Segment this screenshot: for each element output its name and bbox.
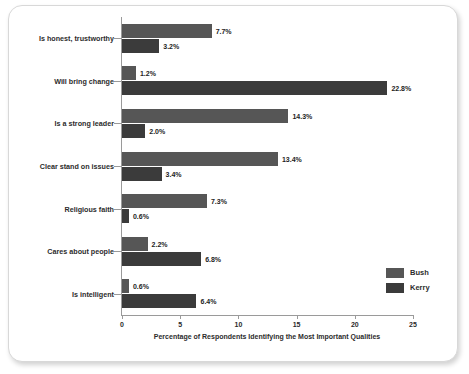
- category-label-4: Religious faith: [64, 204, 114, 213]
- y-tick-4: [114, 209, 121, 210]
- bar-value-kerry-0: 3.2%: [163, 42, 179, 49]
- x-tick-5: [180, 315, 181, 319]
- bar-bush-4: [122, 194, 207, 208]
- bar-kerry-0: [122, 39, 159, 53]
- bar-value-kerry-1: 22.8%: [391, 85, 411, 92]
- bar-bush-2: [122, 109, 288, 123]
- bar-value-bush-6: 0.6%: [133, 283, 149, 290]
- bar-value-bush-2: 14.3%: [292, 112, 312, 119]
- x-tick-label-25: 25: [409, 321, 417, 328]
- bar-value-kerry-3: 3.4%: [166, 170, 182, 177]
- x-tick-label-15: 15: [293, 321, 301, 328]
- bar-value-bush-4: 7.3%: [211, 198, 227, 205]
- x-tick-20: [355, 315, 356, 319]
- bar-kerry-4: [122, 209, 129, 223]
- bar-value-kerry-5: 6.8%: [205, 255, 221, 262]
- bar-bush-0: [122, 24, 212, 38]
- x-tick-0: [122, 315, 123, 319]
- bar-chart: 0510152025 Is honest, trustworthyWill br…: [0, 0, 469, 374]
- x-tick-25: [413, 315, 414, 319]
- bar-bush-1: [122, 66, 136, 80]
- category-label-2: Is a strong leader: [54, 119, 114, 128]
- bar-bush-6: [122, 279, 129, 293]
- bar-kerry-6: [122, 294, 196, 308]
- legend-item-bush[interactable]: Bush: [386, 267, 430, 278]
- x-tick-label-0: 0: [120, 321, 124, 328]
- bar-value-bush-0: 7.7%: [216, 27, 232, 34]
- x-axis-title: Percentage of Respondents Identifying th…: [121, 333, 413, 340]
- legend-label-bush: Bush: [410, 268, 429, 277]
- category-label-3: Clear stand on issues: [40, 162, 114, 171]
- legend-item-kerry[interactable]: Kerry: [386, 282, 430, 293]
- x-tick-15: [297, 315, 298, 319]
- y-tick-1: [114, 81, 121, 82]
- bar-value-bush-3: 13.4%: [282, 155, 302, 162]
- bar-bush-3: [122, 152, 278, 166]
- legend-label-kerry: Kerry: [410, 283, 430, 292]
- bar-kerry-5: [122, 252, 201, 266]
- y-tick-0: [114, 38, 121, 39]
- x-tick-label-5: 5: [178, 321, 182, 328]
- category-label-1: Will bring change: [54, 76, 114, 85]
- x-tick-label-20: 20: [351, 321, 359, 328]
- legend-swatch-kerry: [386, 283, 404, 293]
- category-label-0: Is honest, trustworthy: [39, 34, 114, 43]
- y-tick-6: [114, 294, 121, 295]
- bar-value-kerry-4: 0.6%: [133, 213, 149, 220]
- x-tick-10: [238, 315, 239, 319]
- bar-value-bush-5: 2.2%: [152, 240, 168, 247]
- bar-kerry-3: [122, 167, 162, 181]
- x-tick-label-10: 10: [234, 321, 242, 328]
- bar-value-kerry-2: 2.0%: [149, 127, 165, 134]
- y-tick-3: [114, 166, 121, 167]
- bar-bush-5: [122, 237, 148, 251]
- bar-value-bush-1: 1.2%: [140, 70, 156, 77]
- chart-legend: BushKerry: [386, 267, 430, 297]
- legend-swatch-bush: [386, 268, 404, 278]
- y-tick-2: [114, 123, 121, 124]
- x-axis-line: [121, 315, 413, 316]
- bar-kerry-2: [122, 124, 145, 138]
- category-label-6: Is intelligent: [72, 289, 114, 298]
- bar-kerry-1: [122, 81, 387, 95]
- y-tick-5: [114, 251, 121, 252]
- bar-value-kerry-6: 6.4%: [200, 298, 216, 305]
- category-label-5: Cares about people: [47, 247, 114, 256]
